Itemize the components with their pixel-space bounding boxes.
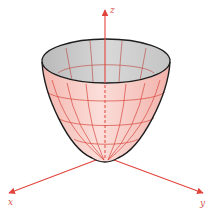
paraboloid-diagram: z x y <box>0 0 210 219</box>
y-axis <box>106 157 203 193</box>
z-axis-label: z <box>109 5 115 15</box>
x-axis <box>9 157 104 193</box>
x-axis-label: x <box>8 197 13 207</box>
y-axis-label: y <box>199 198 206 208</box>
